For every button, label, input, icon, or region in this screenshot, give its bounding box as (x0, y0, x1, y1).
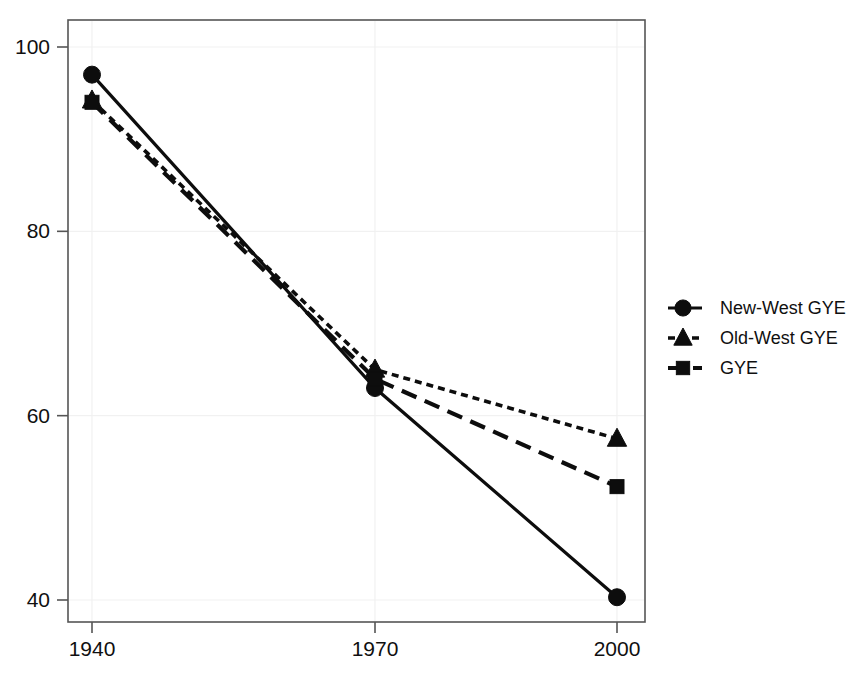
series-line (92, 100, 617, 438)
series-line (92, 75, 617, 598)
legend-item[interactable]: Old-West GYE (668, 328, 838, 348)
y-axis-ticks-group: 100806040 (15, 35, 68, 611)
square-marker-icon (368, 372, 382, 386)
y-tick-label: 100 (15, 35, 50, 58)
chart-page: 100806040 194019702000 New-West GYEOld-W… (0, 0, 855, 678)
line-chart: 100806040 194019702000 New-West GYEOld-W… (0, 0, 855, 678)
legend-item[interactable]: GYE (668, 358, 758, 378)
series-layer (82, 66, 626, 606)
square-marker-icon (610, 480, 624, 494)
plot-frame (68, 20, 645, 622)
series-1 (84, 66, 626, 606)
circle-marker-icon (675, 300, 691, 316)
x-axis-ticks-group: 194019702000 (69, 622, 641, 660)
legend-label: New-West GYE (720, 298, 846, 318)
gridlines-group (69, 21, 644, 621)
x-tick-label: 1940 (69, 637, 116, 660)
legend-item[interactable]: New-West GYE (668, 298, 846, 318)
legend-label: Old-West GYE (720, 328, 838, 348)
square-marker-icon (676, 361, 689, 374)
x-tick-label: 1970 (352, 637, 399, 660)
circle-marker-icon (84, 66, 101, 83)
y-tick-label: 60 (27, 404, 50, 427)
y-tick-label: 80 (27, 219, 50, 242)
circle-marker-icon (609, 589, 626, 606)
series-2 (82, 90, 626, 446)
legend: New-West GYEOld-West GYEGYE (668, 298, 846, 378)
triangle-marker-icon (674, 328, 692, 345)
triangle-marker-icon (607, 428, 626, 446)
x-tick-label: 2000 (594, 637, 641, 660)
square-marker-icon (85, 95, 99, 109)
legend-label: GYE (720, 358, 758, 378)
y-tick-label: 40 (27, 588, 50, 611)
